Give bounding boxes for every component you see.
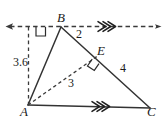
side-length-label-be: 2 <box>76 28 82 40</box>
segment-AC <box>28 105 150 108</box>
vertex-label-C: C <box>147 105 156 118</box>
vertex-label-E: E <box>97 44 105 57</box>
vertex-label-A: A <box>20 105 28 118</box>
horizontal-line-right-arrowhead <box>155 24 162 29</box>
side-length-label-ec: 4 <box>120 62 126 74</box>
right-angle-mark-at-B <box>36 27 46 36</box>
side-length-label-altitude: 3.6 <box>13 56 28 68</box>
vertex-label-B: B <box>57 11 65 24</box>
geometry-figure: A B C E 2 4 3 3.6 <box>0 0 166 123</box>
segment-BC <box>61 27 150 108</box>
side-length-label-ae: 3 <box>68 77 74 89</box>
